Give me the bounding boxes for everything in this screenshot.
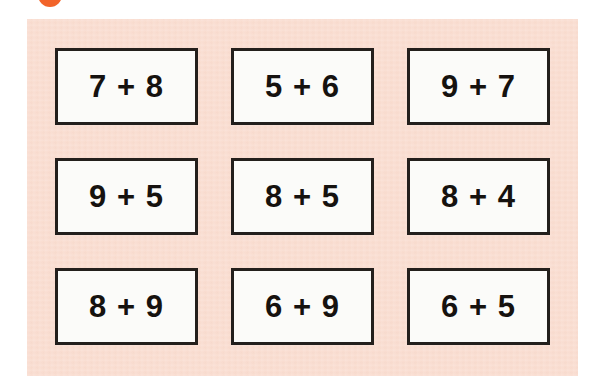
addition-expression: 8 + 9 [89,289,164,325]
addition-expression: 8 + 5 [265,179,340,215]
addition-card[interactable]: 8 + 9 [55,268,198,345]
addition-expression: 7 + 8 [89,69,164,105]
addition-expression: 9 + 5 [89,179,164,215]
addition-card[interactable]: 6 + 5 [407,268,550,345]
addition-card[interactable]: 8 + 4 [407,158,550,235]
addition-expression: 8 + 4 [441,179,516,215]
addition-card[interactable]: 7 + 8 [55,48,198,125]
addition-expression: 6 + 5 [441,289,516,325]
exercise-number-badge-icon: 2 [38,0,62,7]
worksheet-page: 2 7 + 8 5 + 6 9 + 7 9 + 5 8 + 5 8 + 4 [0,0,590,376]
addition-card[interactable]: 5 + 6 [231,48,374,125]
addition-expression: 5 + 6 [265,69,340,105]
addition-card[interactable]: 8 + 5 [231,158,374,235]
worksheet-panel: 7 + 8 5 + 6 9 + 7 9 + 5 8 + 5 8 + 4 8 + … [27,19,578,376]
addition-card[interactable]: 9 + 5 [55,158,198,235]
addition-card[interactable]: 6 + 9 [231,268,374,345]
addition-card-grid: 7 + 8 5 + 6 9 + 7 9 + 5 8 + 5 8 + 4 8 + … [55,48,550,348]
addition-expression: 9 + 7 [441,69,516,105]
addition-expression: 6 + 9 [265,289,340,325]
addition-card[interactable]: 9 + 7 [407,48,550,125]
